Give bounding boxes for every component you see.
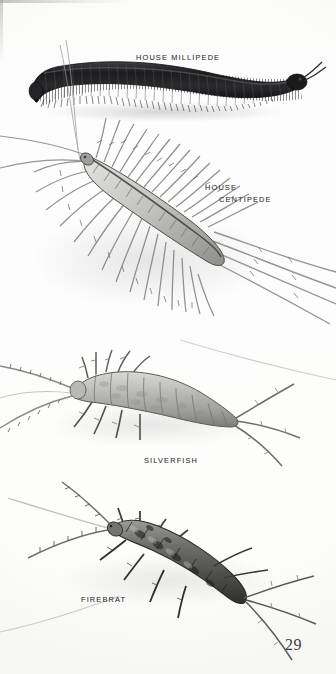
caption-house-millipede: HOUSE MILLIPEDE xyxy=(136,52,220,63)
figure-silverfish xyxy=(0,340,336,466)
illustration-plate xyxy=(0,0,336,674)
caption-silverfish: SILVERFISH xyxy=(144,455,198,466)
page-number: 29 xyxy=(285,636,302,654)
caption-house-centipede-line1: HOUSE xyxy=(205,182,237,193)
caption-firebrat: FIREBRAT xyxy=(81,594,126,605)
figure-firebrat xyxy=(0,482,316,660)
caption-house-centipede-line2: CENTIPEDE xyxy=(219,194,272,205)
book-page: HOUSE MILLIPEDE HOUSE CENTIPEDE SILVERFI… xyxy=(0,0,336,674)
figure-house-centipede xyxy=(0,118,336,324)
